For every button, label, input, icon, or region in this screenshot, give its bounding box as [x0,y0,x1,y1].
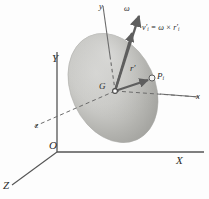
global-z-axis [12,152,57,185]
body-x-axis-label: x [196,92,200,101]
global-z-axis-label: Z [3,180,9,191]
body-z-axis-label: z [35,121,38,130]
body-x-axis-solid [160,94,199,97]
global-x-axis-label: X [176,155,183,166]
particle-marker [149,75,155,81]
rigid-body-ellipsoid [51,19,175,158]
mass-center-marker [113,89,118,94]
origin-label: O [49,140,57,151]
omega-label: ω [124,5,130,13]
radius-vector-label: r′ [130,64,135,73]
global-y-axis-label: Y [52,53,58,64]
rigid-body-rotation-diagram: y x z Y X Z O G Pi ω r′ v′i = ω × r′i [0,0,209,199]
mass-center-label: G [99,82,106,91]
body-y-axis-label: y [99,2,103,11]
particle-label: Pi [157,72,164,82]
vector-equation-label: v′i = ω × r′i [142,24,180,33]
